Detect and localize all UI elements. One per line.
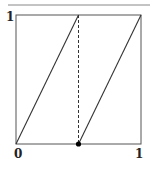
doubling-map-diagram: 1 0 1 [0, 0, 153, 170]
marked-point-dot [76, 141, 81, 146]
x-axis-label-zero: 0 [14, 147, 22, 161]
unit-square-frame [16, 15, 141, 144]
x-axis-label-one: 1 [135, 147, 143, 161]
y-axis-label-one: 1 [6, 10, 14, 24]
map-segment-left [16, 15, 79, 144]
map-segment-right [79, 15, 142, 144]
